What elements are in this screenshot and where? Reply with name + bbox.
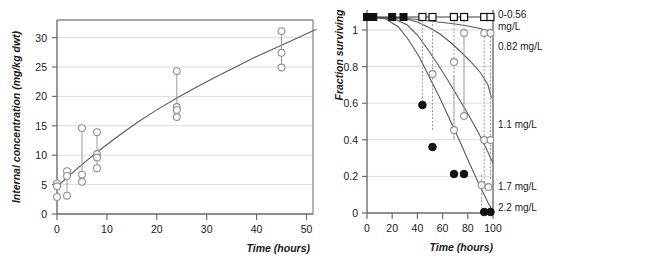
right-ytick-1: 1 [352, 24, 358, 36]
left-xtick-20: 20 [151, 223, 163, 235]
left-xtick-40: 40 [251, 223, 263, 235]
right-datapoint-square [450, 14, 457, 21]
label-22: 2.2 mg/L [498, 202, 537, 213]
left-y-axis-title: Internal concentration (mg/kg dwt) [10, 30, 22, 203]
left-datapoint [64, 192, 71, 199]
left-xtick-30: 30 [201, 223, 213, 235]
right-axes [367, 10, 493, 213]
left-datapoint [173, 68, 180, 75]
right-x-ticklabels: 0 20 40 60 80 100 [364, 222, 502, 234]
left-ytick-15: 15 [35, 120, 47, 132]
left-datapoint [79, 125, 86, 132]
right-datapoint-square [429, 14, 436, 21]
right-datapoint-circle [451, 59, 458, 66]
left-datapoint [54, 194, 61, 201]
left-datapoint [278, 28, 285, 35]
left-datapoint [54, 183, 61, 190]
left-datapoint [173, 107, 180, 114]
left-datapoint [79, 171, 86, 178]
left-data-group-0h [54, 180, 61, 200]
right-datapoint-square [400, 14, 407, 21]
left-datapoint [79, 178, 86, 185]
left-xtick-0: 0 [54, 223, 60, 235]
right-x-ticks [367, 213, 493, 219]
right-datapoint-square [370, 14, 377, 21]
right-y-ticks [362, 30, 367, 213]
left-datapoint [94, 154, 101, 161]
right-series-082 [419, 14, 494, 37]
right-curve-11 [367, 17, 492, 98]
left-datapoint [173, 114, 180, 121]
label-0-056-line2: mg/L [498, 21, 521, 32]
right-datapoint-circle [478, 182, 485, 189]
right-xtick-0: 0 [364, 222, 370, 234]
right-xtick-80: 80 [462, 222, 474, 234]
right-series-22 [419, 101, 495, 216]
right-datapoint-circle [487, 208, 495, 216]
label-0-056-line1: 0-0.56 [498, 9, 527, 20]
right-datapoint-square [461, 14, 468, 21]
left-ytick-0: 0 [41, 208, 47, 220]
left-xtick-10: 10 [101, 223, 113, 235]
right-datapoint-square [419, 14, 426, 21]
right-gridlines [367, 30, 493, 213]
right-datapoint-circle [461, 113, 468, 120]
left-x-ticklabels: 0 10 20 30 40 50 [54, 223, 312, 235]
right-curve-22 [367, 17, 493, 211]
right-y-ticklabels: 0 0.2 0.4 0.6 0.8 1 [343, 24, 358, 219]
right-datapoint-circle [419, 101, 427, 109]
left-uptake-chart: 0 5 10 15 20 25 30 0 10 20 30 40 50 Inte… [0, 0, 330, 267]
right-xtick-60: 60 [437, 222, 449, 234]
right-xtick-100: 100 [484, 222, 502, 234]
left-data-group-45h [278, 28, 285, 71]
right-xtick-20: 20 [386, 222, 398, 234]
right-datapoint-circle [460, 170, 468, 178]
left-x-axis-title: Time (hours) [247, 242, 311, 254]
right-datapoint-square [389, 14, 396, 21]
right-curve-17 [367, 17, 493, 163]
left-datapoint [278, 64, 285, 71]
right-ytick-0: 0 [352, 207, 358, 219]
right-datapoint-circle [450, 170, 458, 178]
left-data-group-2h [64, 168, 71, 199]
right-datapoint-square [487, 14, 494, 21]
right-datapoint-circle [487, 30, 494, 37]
left-x-ticks [57, 214, 307, 220]
right-ytick-02: 0.2 [343, 170, 358, 182]
right-datapoint-circle [485, 184, 492, 191]
left-ytick-20: 20 [35, 90, 47, 102]
left-data-group-24h [173, 68, 180, 121]
right-ytick-04: 0.4 [343, 134, 358, 146]
right-series-labels: 0-0.56 mg/L 0.82 mg/L 1.1 mg/L 1.7 mg/L … [498, 9, 543, 213]
right-x-axis-title: Time (hours) [430, 241, 494, 253]
left-y-ticklabels: 0 5 10 15 20 25 30 [35, 32, 47, 220]
left-fit-curve [57, 29, 316, 187]
right-y-axis-title: Fraction surviving [333, 9, 345, 101]
right-survival-chart: 0 0.2 0.4 0.6 0.8 1 0 20 40 60 80 100 Fr… [330, 0, 660, 267]
right-ytick-06: 0.6 [343, 97, 358, 109]
left-ytick-25: 25 [35, 61, 47, 73]
label-082: 0.82 mg/L [498, 41, 543, 52]
left-xtick-50: 50 [301, 223, 313, 235]
left-datapoint [278, 49, 285, 56]
left-datapoint [64, 173, 71, 180]
right-datapoint-circle [451, 127, 458, 134]
right-droplines [422, 17, 490, 208]
left-ytick-30: 30 [35, 32, 47, 44]
label-17: 1.7 mg/L [498, 181, 537, 192]
right-datapoint-circle [461, 30, 468, 37]
right-datapoint-circle [429, 71, 436, 78]
right-ytick-08: 0.8 [343, 61, 358, 73]
figure-container: 0 5 10 15 20 25 30 0 10 20 30 40 50 Inte… [0, 0, 660, 267]
left-gridlines [57, 38, 313, 214]
right-datapoint-circle [487, 137, 494, 144]
right-datapoint-circle [429, 143, 437, 151]
left-datapoint [94, 165, 101, 172]
right-xtick-40: 40 [412, 222, 424, 234]
left-datapoint [94, 129, 101, 136]
left-ytick-10: 10 [35, 149, 47, 161]
left-ytick-5: 5 [41, 179, 47, 191]
label-11: 1.1 mg/L [498, 119, 537, 130]
